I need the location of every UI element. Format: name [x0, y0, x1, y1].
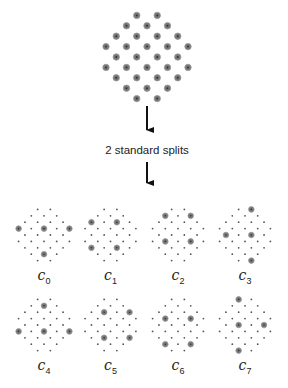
- subpattern-c4: [16, 299, 72, 352]
- lattice-point-center: [165, 241, 167, 243]
- lattice-point: [183, 209, 185, 211]
- lattice-point-center: [126, 25, 128, 27]
- lattice-point-center: [136, 77, 138, 79]
- lattice-point: [135, 241, 137, 243]
- lattice-point-center: [129, 311, 131, 313]
- lattice-point: [196, 247, 198, 249]
- lattice-point: [257, 241, 259, 243]
- lattice-point-center: [156, 35, 158, 37]
- lattice-point: [238, 221, 240, 223]
- lattice-point: [37, 311, 39, 313]
- lattice-point: [56, 331, 58, 333]
- lattice-point: [219, 228, 221, 230]
- subpattern-c5: [84, 299, 137, 352]
- lattice-point: [62, 221, 64, 223]
- lattice-point: [30, 343, 32, 345]
- lattice-point: [97, 318, 99, 320]
- lattice-point: [97, 305, 99, 307]
- lattice-point-center: [146, 66, 148, 68]
- lattice-point: [49, 350, 51, 352]
- lattice-point: [171, 350, 173, 352]
- lattice-point: [177, 331, 179, 333]
- lattice-point: [110, 253, 112, 255]
- lattice-point: [97, 253, 99, 255]
- subpattern-label-c0: c0: [38, 267, 51, 286]
- lattice-point-center: [263, 324, 265, 326]
- subpattern-grid: [16, 207, 271, 354]
- lattice-point: [110, 343, 112, 345]
- lattice-point: [158, 311, 160, 313]
- lattice-point: [238, 260, 240, 262]
- lattice-point-center: [91, 221, 93, 223]
- lattice-point-center: [238, 350, 240, 352]
- lattice-point: [158, 337, 160, 339]
- label-subscript: 6: [179, 366, 184, 376]
- lattice-point-center: [251, 234, 253, 236]
- lattice-point: [49, 299, 51, 301]
- lattice-point-center: [136, 98, 138, 100]
- lattice-point: [116, 311, 118, 313]
- lattice-point: [91, 234, 93, 236]
- lattice-point-center: [167, 25, 169, 27]
- lattice-point: [244, 331, 246, 333]
- label-subscript: 2: [179, 276, 184, 286]
- lattice-point: [30, 253, 32, 255]
- lattice-point: [135, 331, 137, 333]
- lattice-point-center: [103, 337, 105, 339]
- lattice-point-center: [190, 318, 192, 320]
- lattice-point: [91, 311, 93, 313]
- lattice-point: [110, 228, 112, 230]
- lattice-point: [62, 234, 64, 236]
- lattice-point: [62, 337, 64, 339]
- lattice-point: [30, 318, 32, 320]
- lattice-point: [43, 215, 45, 217]
- subpattern-c0: [16, 209, 72, 262]
- lattice-point-center: [18, 228, 20, 230]
- lattice-point: [225, 247, 227, 249]
- lattice-point-center: [165, 215, 167, 217]
- lattice-point: [183, 247, 185, 249]
- lattice-point: [24, 337, 26, 339]
- lattice-point-center: [177, 56, 179, 58]
- lattice-point: [231, 318, 233, 320]
- lattice-point: [110, 305, 112, 307]
- lattice-point-center: [136, 56, 138, 58]
- lattice-point: [171, 221, 173, 223]
- lattice-point-center: [156, 14, 158, 16]
- lattice-point: [244, 318, 246, 320]
- lattice-point: [62, 311, 64, 313]
- lattice-point: [219, 331, 221, 333]
- lattice-point: [37, 247, 39, 249]
- lattice-point: [116, 260, 118, 262]
- lattice-point: [203, 228, 205, 230]
- lattice-point-center: [105, 66, 107, 68]
- lattice-point: [171, 324, 173, 326]
- lattice-point: [183, 260, 185, 262]
- lattice-point: [122, 253, 124, 255]
- label-subscript: 1: [112, 276, 117, 286]
- lattice-point: [103, 299, 105, 301]
- lattice-point-center: [251, 260, 253, 262]
- lattice-point: [49, 209, 51, 211]
- lattice-point: [171, 234, 173, 236]
- lattice-point: [257, 253, 259, 255]
- subpattern-c2: [152, 209, 205, 262]
- lattice-point: [231, 215, 233, 217]
- lattice-point: [171, 209, 173, 211]
- lattice-point: [203, 331, 205, 333]
- subpattern-c6: [152, 299, 205, 352]
- lattice-point: [238, 209, 240, 211]
- lattice-point: [97, 215, 99, 217]
- lattice-point-center: [69, 228, 71, 230]
- lattice-point-center: [115, 56, 117, 58]
- lattice-point: [177, 253, 179, 255]
- lattice-point: [43, 318, 45, 320]
- lattice-point: [43, 241, 45, 243]
- lattice-point-center: [136, 14, 138, 16]
- lattice-point: [152, 228, 154, 230]
- lattice-point: [196, 337, 198, 339]
- lattice-point: [225, 337, 227, 339]
- lattice-point: [37, 234, 39, 236]
- label-main: c: [104, 267, 112, 283]
- lattice-point: [116, 337, 118, 339]
